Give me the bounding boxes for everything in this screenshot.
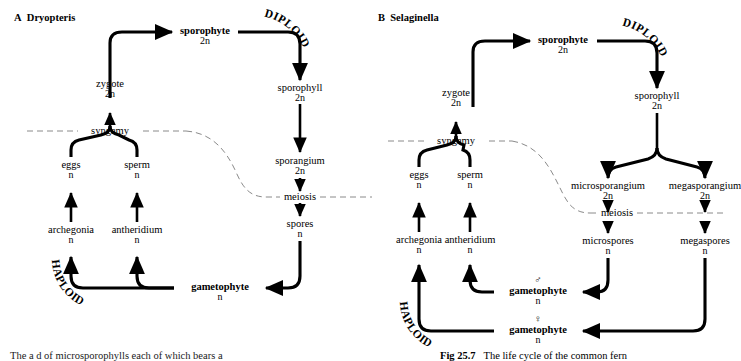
- node-spores-a: spores n: [287, 218, 314, 240]
- diploid-label-b: DIPLOID: [621, 16, 670, 59]
- node-ploidy: 2n: [180, 36, 230, 47]
- figure-caption: Fig 25.7 The life cycle of the common fe…: [440, 350, 627, 361]
- panel-a-arrows: [71, 32, 300, 288]
- female-symbol-icon: ♀: [509, 314, 567, 324]
- node-ploidy: n: [112, 235, 163, 246]
- node-ploidy: n: [680, 246, 730, 257]
- node-zygote-b: zygote 2n: [442, 87, 470, 109]
- node-sperm-a: sperm n: [124, 159, 150, 181]
- boundary-meiosis-b: meiosis: [601, 207, 633, 218]
- node-ploidy: 2n: [538, 45, 588, 56]
- haploid-label-a: HAPLOID: [50, 259, 87, 308]
- panel-a-organism: Dryopteris: [27, 12, 75, 23]
- node-eggs-b: eggs n: [409, 169, 428, 191]
- node-ploidy: n: [509, 335, 567, 346]
- node-ploidy: n: [48, 235, 94, 246]
- node-microsporangium-b: microsporangium 2n: [571, 180, 645, 202]
- left-body-text-fragment: The a d of microsporophylls each of whic…: [10, 350, 223, 361]
- node-ploidy: n: [409, 180, 428, 191]
- panel-b-title: B Selaginella: [378, 12, 439, 23]
- node-gametophyte-female-b: ♀ gametophyte n: [509, 314, 567, 346]
- node-sperm-b: sperm n: [457, 169, 483, 191]
- node-archegonia-b: archegonia n: [396, 234, 442, 256]
- node-ploidy: n: [457, 180, 483, 191]
- node-zygote-a: zygote 2n: [96, 78, 124, 100]
- node-gametophyte-male-b: ♂ gametophyte n: [509, 275, 567, 307]
- panel-b-organism: Selaginella: [390, 12, 438, 23]
- node-megasporangium-b: megasporangium 2n: [669, 180, 741, 202]
- diploid-label-a: DIPLOID: [263, 7, 312, 50]
- node-ploidy: 2n: [278, 93, 323, 104]
- panel-a-title: A Dryopteris: [14, 12, 75, 23]
- node-sporophyte-b: sporophyte 2n: [538, 34, 588, 56]
- figure-caption-text: The life cycle of the common fern: [483, 350, 626, 361]
- boundary-syngamy-b: syngamy: [437, 135, 475, 146]
- node-ploidy: 2n: [275, 166, 325, 177]
- node-ploidy: 2n: [96, 89, 124, 100]
- node-ploidy: n: [287, 229, 314, 240]
- panel-b-boundary: [388, 141, 726, 213]
- node-eggs-a: eggs n: [61, 159, 80, 181]
- node-ploidy: 2n: [571, 191, 645, 202]
- node-megaspores-b: megaspores n: [680, 235, 730, 257]
- haploid-label-b: HAPLOID: [398, 301, 435, 350]
- male-symbol-icon: ♂: [509, 275, 567, 285]
- figure-number: Fig 25.7: [440, 350, 476, 361]
- node-ploidy: n: [509, 296, 567, 307]
- panel-a-letter: A: [14, 12, 22, 23]
- node-ploidy: n: [124, 170, 150, 181]
- node-microspores-b: microspores n: [582, 235, 633, 257]
- node-antheridium-b: antheridium n: [445, 234, 496, 256]
- node-ploidy: 2n: [669, 191, 741, 202]
- node-archegonia-a: archegonia n: [48, 224, 94, 246]
- node-sporangium-a: sporangium 2n: [275, 155, 325, 177]
- node-sporophyll-b: sporophyll 2n: [635, 90, 680, 112]
- panel-b-letter: B: [378, 12, 385, 23]
- node-antheridium-a: antheridium n: [112, 224, 163, 246]
- node-ploidy: n: [61, 170, 80, 181]
- node-ploidy: n: [396, 245, 442, 256]
- node-sporophyll-a: sporophyll 2n: [278, 82, 323, 104]
- node-ploidy: n: [445, 245, 496, 256]
- node-gametophyte-a: gametophyte n: [191, 281, 249, 303]
- boundary-syngamy-a: syngamy: [91, 125, 129, 136]
- node-sporophyte-a: sporophyte 2n: [180, 25, 230, 47]
- node-ploidy: n: [582, 246, 633, 257]
- node-ploidy: n: [191, 292, 249, 303]
- node-ploidy: 2n: [635, 101, 680, 112]
- node-ploidy: 2n: [442, 98, 470, 109]
- boundary-meiosis-a: meiosis: [284, 191, 316, 202]
